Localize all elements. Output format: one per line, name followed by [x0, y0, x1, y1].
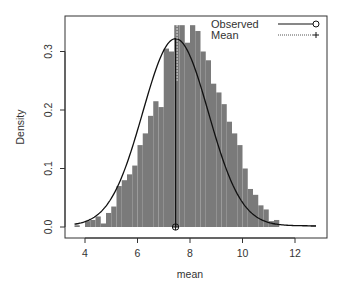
histogram-bar [106, 213, 111, 227]
legend: Observed Mean [211, 18, 319, 41]
histogram-bar [122, 180, 127, 227]
histogram-bar [138, 145, 143, 227]
histogram-bar [232, 133, 237, 227]
x-tick-label: 10 [237, 247, 249, 259]
y-tick-label: 0.2 [42, 103, 54, 118]
histogram-bar [216, 92, 221, 227]
histogram-bar [227, 122, 232, 227]
x-axis-title: mean [177, 268, 203, 280]
legend-mean-label: Mean [211, 29, 239, 41]
x-tick-label: 8 [187, 247, 193, 259]
histogram-bar [96, 216, 101, 227]
histogram-bar [180, 25, 185, 227]
histogram-bar [132, 166, 137, 227]
histogram-bar [148, 116, 153, 227]
x-axis: 4681012 [82, 238, 301, 259]
histogram-bar [258, 205, 263, 227]
histogram-bar [143, 133, 148, 227]
histogram-bar [248, 189, 253, 227]
histogram-bar [253, 195, 258, 227]
histogram-bar [75, 225, 80, 227]
y-tick-label: 0.0 [42, 220, 54, 235]
histogram-bar [153, 101, 158, 227]
y-tick-label: 0.3 [42, 44, 54, 59]
y-axis: 0.00.10.20.3 [42, 44, 65, 234]
histogram-bar [159, 107, 164, 227]
histogram-bar [111, 207, 116, 227]
histogram-bar [222, 104, 227, 227]
histogram-bar [206, 60, 211, 227]
histogram-bar [164, 49, 169, 227]
x-tick-label: 12 [289, 247, 301, 259]
histogram-bar [264, 209, 269, 227]
histogram-bar [243, 169, 248, 228]
legend-mean-plus-icon [313, 32, 319, 38]
histogram-chart: 4681012 0.00.10.20.3 mean Density Observ… [0, 0, 347, 292]
histogram-bar [211, 84, 216, 227]
x-tick-label: 6 [135, 247, 141, 259]
histogram-bar [90, 220, 95, 227]
histogram-bar [195, 31, 200, 227]
histogram-bar [185, 43, 190, 227]
histogram-bar [127, 174, 132, 227]
histogram-bar [101, 223, 106, 227]
histogram-bar [117, 186, 122, 227]
histogram-bar [201, 52, 206, 228]
histogram-bar [237, 145, 242, 227]
histogram-bar [169, 52, 174, 228]
histogram-bars [75, 25, 317, 227]
legend-observed-circle-icon [313, 21, 319, 27]
y-axis-title: Density [14, 109, 26, 145]
y-tick-label: 0.1 [42, 161, 54, 176]
histogram-bar [190, 25, 195, 227]
x-tick-label: 4 [82, 247, 88, 259]
